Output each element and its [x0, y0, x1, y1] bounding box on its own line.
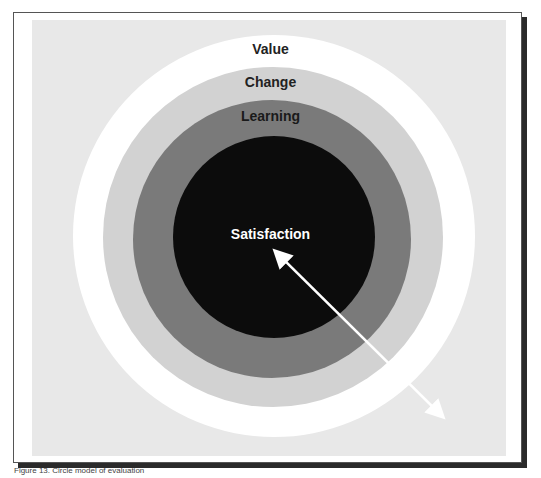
bidirectional-arrow-icon — [0, 0, 541, 478]
figure-caption: Figure 13. Circle model of evaluation — [14, 466, 144, 475]
